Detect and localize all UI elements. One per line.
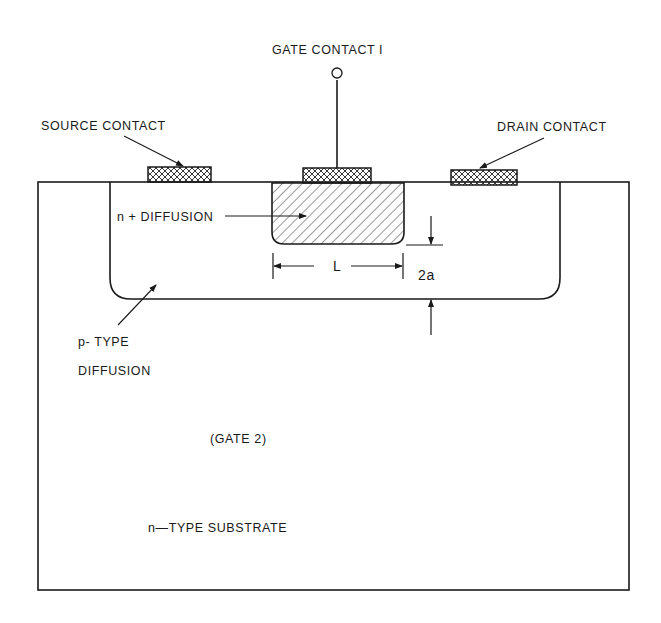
drain-contact [451, 170, 517, 185]
drain-leader-arrow [480, 138, 544, 168]
gate-terminal-icon [332, 68, 342, 78]
source-contact [148, 167, 211, 182]
source-leader-arrow [124, 136, 183, 166]
p-type-leader-arrow [118, 285, 156, 325]
gate-2-label: (GATE 2) [210, 432, 267, 446]
gate-contact-1-label: GATE CONTACT I [272, 43, 383, 57]
length-label: L [333, 258, 341, 274]
drain-contact-label: DRAIN CONTACT [497, 120, 607, 134]
jfet-cross-section-diagram: GATE CONTACT I SOURCE CONTACT DRAIN CONT… [0, 0, 661, 623]
source-contact-label: SOURCE CONTACT [41, 119, 166, 133]
gate-contact-1 [303, 168, 371, 183]
n-plus-diffusion-region [272, 183, 404, 244]
thickness-label: 2a [418, 267, 435, 283]
p-type-label: p- TYPE [78, 335, 129, 349]
p-diffusion-label: DIFFUSION [78, 364, 151, 378]
substrate-label: n—TYPE SUBSTRATE [148, 521, 287, 535]
n-plus-diffusion-label: n + DIFFUSION [117, 210, 213, 224]
